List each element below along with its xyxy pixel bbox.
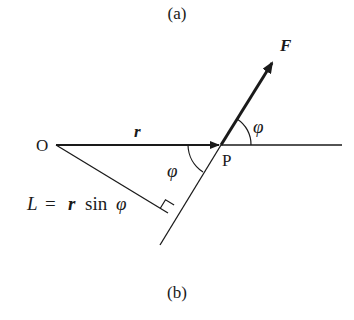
label-point-P: P bbox=[222, 151, 231, 170]
label-angle-phi-upper: φ bbox=[253, 116, 264, 137]
label-vector-r: r bbox=[134, 122, 141, 141]
eq-phi: φ bbox=[116, 193, 127, 214]
eq-r: r bbox=[68, 193, 76, 214]
eq-L: L bbox=[26, 193, 38, 214]
eq-equals: = bbox=[45, 193, 56, 214]
angle-arc-upper bbox=[237, 119, 251, 145]
caption-b: (b) bbox=[167, 283, 187, 302]
label-origin-O: O bbox=[36, 136, 48, 155]
force-vector-F bbox=[221, 63, 272, 145]
right-angle-marker bbox=[160, 200, 174, 209]
label-angle-phi-lower: φ bbox=[167, 160, 178, 181]
caption-a: (a) bbox=[168, 4, 187, 23]
torque-diagram: (a) O P F r φ φ L = r sin φ (b) bbox=[0, 0, 354, 320]
angle-arc-lower bbox=[188, 145, 203, 172]
eq-sin: sin bbox=[85, 193, 108, 214]
label-force-F: F bbox=[279, 36, 292, 55]
lever-arm-equation: L = r sin φ bbox=[26, 193, 127, 214]
